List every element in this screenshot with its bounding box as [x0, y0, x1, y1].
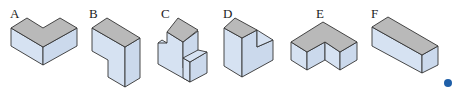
shape-e: E [291, 6, 357, 70]
shape-a: A [10, 6, 77, 65]
label-b: B [89, 6, 98, 21]
label-e: E [316, 6, 324, 21]
shape-c: C [158, 6, 207, 82]
label-c: C [161, 6, 170, 21]
shape-d: D [223, 6, 273, 77]
label-d: D [223, 6, 232, 21]
label-f: F [371, 6, 378, 21]
shape-b: B [89, 6, 140, 87]
shape-f: F [371, 6, 438, 73]
blue-dot-marker [444, 79, 452, 87]
label-a: A [10, 6, 20, 21]
isometric-shapes-figure: A B C D E [0, 0, 460, 92]
